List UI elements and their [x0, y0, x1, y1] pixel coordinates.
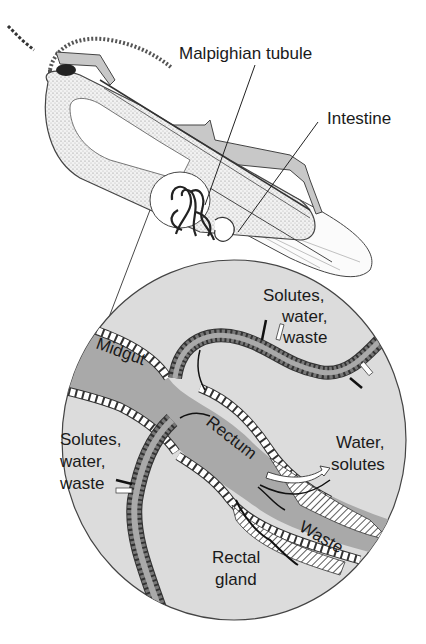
eye	[56, 64, 76, 76]
antenna-icon	[8, 26, 34, 50]
label-solutes-left-1: Solutes,	[60, 430, 121, 449]
label-malpighian-tubule: Malpighian tubule	[179, 44, 312, 63]
intestine-small	[215, 217, 235, 241]
label-water-solutes-2: solutes	[331, 455, 385, 474]
label-solutes-top-2: water,	[281, 307, 327, 326]
excretory-system-diagram: Malpighian tubule Intestine	[0, 0, 426, 644]
label-rectal-gland-1: Rectal	[212, 548, 260, 567]
label-rectal-gland-2: gland	[215, 570, 257, 589]
label-solutes-left-2: water,	[59, 452, 105, 471]
label-intestine: Intestine	[327, 109, 391, 128]
label-solutes-top-3: waste	[282, 328, 327, 347]
inflow-white-arrow-icon	[116, 488, 132, 493]
label-solutes-left-3: waste	[59, 474, 104, 493]
label-solutes-top-1: Solutes,	[263, 286, 324, 305]
label-water-solutes-1: Water,	[336, 433, 385, 452]
